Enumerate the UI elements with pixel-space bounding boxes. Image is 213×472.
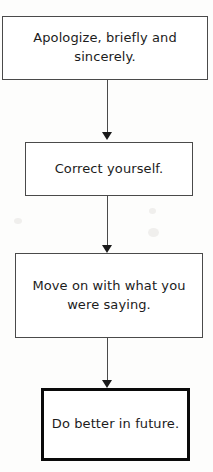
paper-speckle [148, 228, 159, 237]
arrow-down-icon [102, 380, 112, 388]
flowchart-edge-moveon-to-dobetter [107, 338, 108, 381]
arrow-down-icon [102, 245, 112, 253]
flowchart-edge-apologize-to-correct [107, 80, 108, 133]
flowchart-node-apologize[interactable]: Apologize, briefly and sincerely. [2, 16, 208, 80]
paper-speckle [149, 208, 156, 214]
flowchart-node-correct-yourself[interactable]: Correct yourself. [25, 142, 193, 196]
paper-speckle [14, 218, 22, 224]
flowchart-canvas: Apologize, briefly and sincerely. Correc… [0, 0, 213, 472]
flowchart-node-do-better[interactable]: Do better in future. [41, 388, 190, 461]
flowchart-node-move-on[interactable]: Move on with what you were saying. [15, 253, 203, 338]
flowchart-node-label: Correct yourself. [49, 160, 170, 179]
flowchart-node-label: Move on with what you were saying. [16, 277, 202, 315]
arrow-down-icon [102, 132, 112, 140]
flowchart-node-label: Do better in future. [46, 415, 185, 434]
flowchart-edge-correct-to-moveon [107, 196, 108, 246]
flowchart-node-label: Apologize, briefly and sincerely. [3, 29, 207, 67]
